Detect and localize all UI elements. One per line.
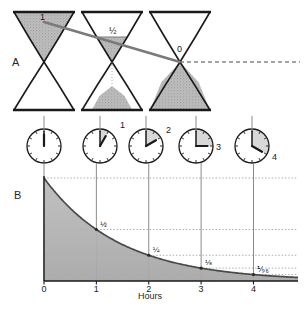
half-life-decay-figure: 1½0 1234 ½¼⅛⅑₆01234 A B Hours <box>0 0 304 311</box>
x-axis-title: Hours <box>138 291 163 301</box>
hourglass-2-level-label: 0 <box>177 44 182 54</box>
clock-3-label: 3 <box>216 142 221 152</box>
data-point-4 <box>252 273 255 276</box>
clock-2-label: 2 <box>166 125 171 135</box>
clock-1-label: 1 <box>120 120 125 130</box>
data-point-1 <box>95 228 98 231</box>
hourglass-0-level-label: 1 <box>40 12 45 22</box>
data-point-2 <box>147 254 150 257</box>
data-point-label-1: ½ <box>100 220 107 229</box>
x-tick-label-4: 4 <box>251 284 256 294</box>
panel-label-b: B <box>14 189 21 201</box>
x-tick-label-3: 3 <box>199 284 204 294</box>
x-tick-label-1: 1 <box>94 284 99 294</box>
panel-label-a: A <box>12 56 20 68</box>
figure-canvas: 1½0 1234 ½¼⅛⅑₆01234 A B Hours <box>0 0 304 311</box>
data-point-3 <box>200 267 203 270</box>
data-point-label-3: ⅛ <box>205 258 212 267</box>
x-tick-label-0: 0 <box>41 284 46 294</box>
data-point-label-4: ⅑₆ <box>257 265 268 274</box>
clock-4-label: 4 <box>272 152 277 162</box>
hourglass-1-level-label: ½ <box>109 26 117 36</box>
data-point-label-2: ¼ <box>153 245 160 254</box>
